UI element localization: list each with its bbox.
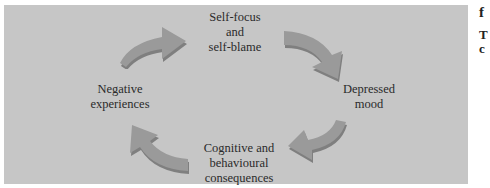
node-label-line: and: [187, 25, 283, 40]
curved-arrow-icon: [282, 27, 352, 82]
curved-arrow-icon: [124, 125, 194, 180]
node-label-line: Cognitive and: [189, 141, 289, 156]
node-label-line: Depressed: [324, 82, 414, 97]
diagram-panel: Self-focus and self-blame Depressed mood…: [4, 5, 468, 184]
node-label-line: self-blame: [187, 40, 283, 55]
side-text-line: f: [479, 4, 484, 21]
node-label-line: consequences: [189, 171, 289, 186]
node-label-line: mood: [324, 97, 414, 112]
node-label-line: Self-focus: [187, 10, 283, 25]
side-text-line: c: [479, 41, 485, 57]
curved-arrow-icon: [286, 120, 356, 172]
node-self-focus: Self-focus and self-blame: [187, 10, 283, 55]
node-consequences: Cognitive and behavioural consequences: [189, 141, 289, 186]
node-negative-experiences: Negative experiences: [70, 82, 170, 112]
node-label-line: experiences: [70, 97, 170, 112]
node-label-line: behavioural: [189, 156, 289, 171]
node-label-line: Negative: [70, 82, 170, 97]
node-depressed-mood: Depressed mood: [324, 82, 414, 112]
curved-arrow-icon: [116, 19, 196, 69]
